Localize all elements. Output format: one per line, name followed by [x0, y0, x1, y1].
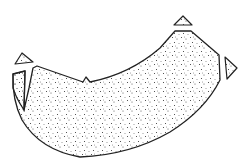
top-left-chip-shape [15, 53, 33, 64]
main-body-shape [13, 31, 220, 157]
top-right-chip-shape [174, 16, 192, 25]
stippled-fragment-drawing [0, 0, 247, 167]
right-chip-shape [225, 57, 237, 79]
